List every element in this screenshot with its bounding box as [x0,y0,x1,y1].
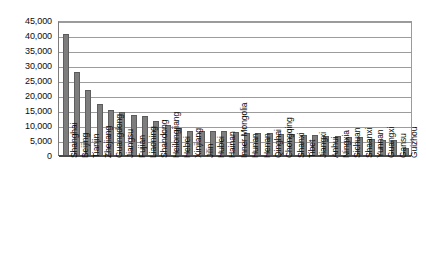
bar-chart-figure: 45,00040,00035,00030,00025,00020,00015,0… [0,0,426,255]
x-axis-tick-label: Shaanxi [364,128,373,158]
x-axis-tick-label: Tianjin [92,134,101,158]
x-axis-tick-label: Jiangsu [126,129,135,158]
x-axis-tick: Liaoning [138,157,149,255]
x-axis-tick: Chongqing [275,157,286,255]
x-axis-tick: Guangdong [104,157,115,255]
x-axis-tick-label: Hebei [183,136,192,158]
x-axis-tick: Xinjiang [184,157,195,255]
x-axis-tick: Shaanxi [354,157,365,255]
x-axis-tick-label: Shandong [160,120,169,158]
x-axis-tick-label: Tibet [307,140,316,158]
x-axis-tick-label: Ningxia [341,130,350,158]
x-axis-tick: Zhejiang [93,157,104,255]
x-axis-tick: Henan [252,157,263,255]
x-axis-tick-label: Anhui [330,137,339,159]
x-axis-tick: Hebei [172,157,183,255]
x-axis-tick: Inner Mongolia [229,157,240,255]
y-axis-tick-label: 5,000 [0,137,52,146]
y-axis-tick-label: 10,000 [0,122,52,131]
x-axis-tick: Hunan [241,157,252,255]
y-axis: 45,00040,00035,00030,00025,00020,00015,0… [0,0,56,255]
x-axis-tick: Fujian [127,157,138,255]
x-axis-tick-label: Hubei [217,136,226,158]
x-axis-tick-label: Henan [262,133,271,158]
x-axis-tick: Shanghai [59,157,70,255]
y-axis-tick-label: 40,000 [0,32,52,41]
x-axis-tick-label: Beijing [81,133,90,158]
x-axis-tick-label: Inner Mongolia [239,102,248,158]
x-axis-tick: Qinghai [263,157,274,255]
x-axis-tick-label: Liaoning [149,126,158,158]
x-axis-tick: Jiangxi [309,157,320,255]
x-axis-tick-label: Heilongjiang [171,112,180,158]
x-axis-tick-label: Shanxi [296,132,305,158]
x-axis-tick-label: Guizhou [409,127,418,158]
x-axis-tick: Yunnan [365,157,376,255]
x-axis-tick-label: Jiangxi [319,132,328,158]
x-axis-tick: Hubei [206,157,217,255]
x-axis-tick-label: Shanghai [69,122,78,158]
x-axis-tick: Jiangsu [116,157,127,255]
x-axis-tick: Jilin [195,157,206,255]
x-axis-tick: Guizhou [399,157,410,255]
x-axis-tick-label: Qinghai [273,129,282,158]
x-axis-tick: Shanxi [286,157,297,255]
x-axis-tick: Hainan [218,157,229,255]
x-axis-tick-label: Guangdong [115,114,124,158]
x-axis: ShanghaiBeijingTianjinZhejiangGuangdongJ… [58,157,412,255]
x-axis-tick: Heilongjiang [161,157,172,255]
x-axis-tick: Tibet [297,157,308,255]
x-axis-tick: Tianjin [82,157,93,255]
x-axis-tick: Shandong [150,157,161,255]
x-axis-tick-label: Chongqing [285,117,294,158]
x-axis-tick-label: Guangxi [387,127,396,158]
x-axis-tick-label: Gansu [398,133,407,158]
y-axis-tick-label: 15,000 [0,107,52,116]
x-axis-tick: Guangxi [377,157,388,255]
x-axis-tick-label: Hunan [251,133,260,158]
y-axis-tick-label: 45,000 [0,17,52,26]
x-axis-tick-label: Hainan [228,131,237,158]
x-axis-tick-label: Sichuan [353,128,362,158]
y-axis-tick-label: 35,000 [0,47,52,56]
y-axis-tick-label: 25,000 [0,77,52,86]
y-axis-tick-label: 30,000 [0,62,52,71]
x-axis-tick: Beijing [70,157,81,255]
y-axis-tick-label: 20,000 [0,92,52,101]
x-axis-tick: Sichuan [343,157,354,255]
x-axis-tick-label: Jilin [205,144,214,158]
x-axis-tick: Ningxia [331,157,342,255]
x-axis-tick-label: Fujian [137,135,146,158]
x-axis-tick: Anhui [320,157,331,255]
x-axis-tick-label: Zhejiang [103,126,112,158]
x-axis-tick-label: Yunnan [375,129,384,158]
x-axis-tick-label: Xinjiang [194,128,203,158]
y-axis-tick-label: 0 [0,152,52,161]
x-axis-tick: Gansu [388,157,399,255]
